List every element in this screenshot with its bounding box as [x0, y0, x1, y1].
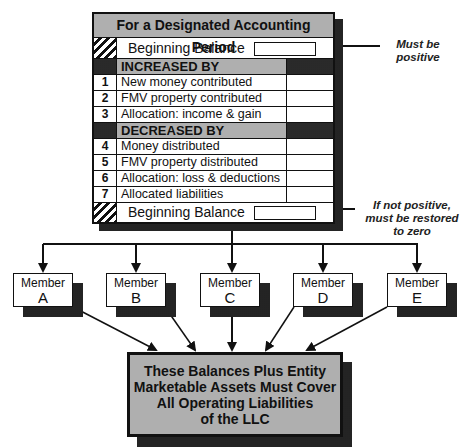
row-number: 3: [94, 107, 117, 122]
table-row: 6 Allocation: loss & deductions: [94, 171, 333, 187]
beginning-balance-row-bottom: Beginning Balance: [94, 203, 333, 222]
row-label: Allocated liabilities: [121, 187, 223, 202]
member-label: Member: [208, 276, 252, 290]
beginning-balance-label: Beginning Balance: [128, 204, 245, 220]
result-line: Marketable Assets Must Cover: [130, 379, 340, 395]
result-box: These Balances Plus Entity Marketable As…: [127, 352, 343, 437]
beginning-balance-value-box: [254, 206, 316, 220]
result-line: These Balances Plus Entity: [130, 363, 340, 379]
section-marker: [94, 123, 117, 138]
result-line: of the LLC: [130, 411, 340, 427]
row-value: [286, 107, 333, 122]
section-marker: [94, 59, 117, 74]
member-label: Member: [301, 276, 345, 290]
note-restore-to-zero: If not positive, must be restored to zer…: [355, 199, 469, 238]
hatch-marker: [94, 203, 117, 222]
table-row: 3 Allocation: income & gain: [94, 107, 333, 123]
row-number: 6: [94, 171, 117, 186]
note-line: If not positive,: [355, 199, 469, 212]
row-label: Allocation: loss & deductions: [121, 171, 280, 186]
table-row: 7 Allocated liabilities: [94, 187, 333, 203]
member-label: Member: [395, 276, 439, 290]
table-title: For a Designated Accounting Period: [94, 14, 333, 38]
table-row: 1 New money contributed: [94, 75, 333, 91]
member-b-box: Member B: [106, 273, 166, 307]
beginning-balance-row-top: Beginning Balance: [94, 38, 333, 59]
beginning-balance-label: Beginning Balance: [128, 40, 245, 56]
note-line: must be restored: [355, 212, 469, 225]
row-value: [286, 155, 333, 170]
row-number: 5: [94, 155, 117, 170]
note-line: to zero: [355, 225, 469, 238]
member-letter: E: [388, 290, 446, 306]
result-line: All Operating Liabilities: [130, 395, 340, 411]
note-line: Must be: [378, 38, 458, 51]
member-letter: A: [14, 290, 72, 306]
table-row: 2 FMV property contributed: [94, 91, 333, 107]
member-letter: C: [201, 290, 259, 306]
section-value-band: [286, 123, 333, 138]
hatch-marker: [94, 38, 117, 58]
increased-by-header: INCREASED BY: [121, 59, 219, 74]
row-label: Money distributed: [121, 139, 220, 154]
row-value: [286, 171, 333, 186]
row-value: [286, 75, 333, 90]
note-must-be-positive: Must be positive: [378, 38, 458, 64]
capital-account-table: For a Designated Accounting Period Begin…: [92, 12, 335, 224]
row-value: [286, 139, 333, 154]
member-letter: D: [294, 290, 352, 306]
row-label: FMV property contributed: [121, 91, 262, 106]
note-line: positive: [378, 51, 458, 64]
member-letter: B: [107, 290, 165, 306]
row-number: 4: [94, 139, 117, 154]
member-e-box: Member E: [387, 273, 447, 307]
member-label: Member: [114, 276, 158, 290]
row-value: [286, 91, 333, 106]
table-row: 4 Money distributed: [94, 139, 333, 155]
decreased-by-section: DECREASED BY: [94, 123, 333, 139]
table-row: 5 FMV property distributed: [94, 155, 333, 171]
increased-by-section: INCREASED BY: [94, 59, 333, 75]
row-number: 1: [94, 75, 117, 90]
beginning-balance-value-box: [254, 42, 316, 56]
member-a-box: Member A: [13, 273, 73, 307]
member-d-box: Member D: [293, 273, 353, 307]
row-label: FMV property distributed: [121, 155, 258, 170]
row-label: Allocation: income & gain: [121, 107, 261, 122]
decreased-by-header: DECREASED BY: [121, 123, 224, 138]
member-c-box: Member C: [200, 273, 260, 307]
section-value-band: [286, 59, 333, 74]
row-number: 7: [94, 187, 117, 202]
row-number: 2: [94, 91, 117, 106]
row-value: [286, 187, 333, 202]
member-label: Member: [21, 276, 65, 290]
row-label: New money contributed: [121, 75, 252, 90]
